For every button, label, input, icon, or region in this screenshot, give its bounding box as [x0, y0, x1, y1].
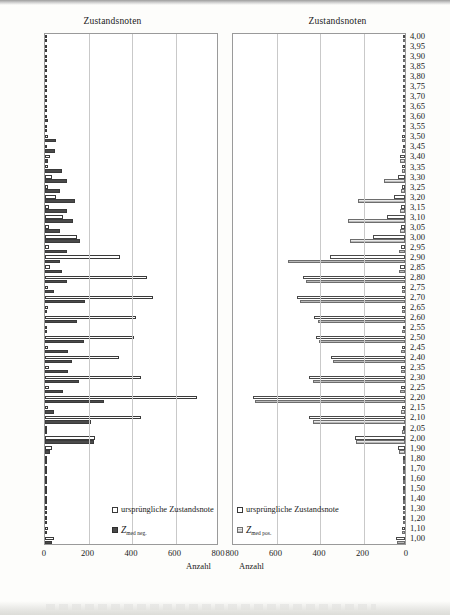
scan-edge-bottom [0, 601, 450, 615]
bar-original [45, 115, 47, 118]
y-axis-tick-label: 3,40 [410, 152, 450, 161]
bar-row [45, 315, 217, 325]
bar-original [45, 416, 141, 419]
bar-original [402, 135, 405, 138]
bar-row [233, 144, 405, 154]
bar-zmed [313, 380, 405, 383]
bar-zmed [45, 290, 54, 293]
bar-original [45, 306, 48, 309]
bar-row [45, 295, 217, 305]
bar-original [45, 336, 134, 339]
bar-row [233, 64, 405, 74]
x-axis-tick-label: 600 [269, 548, 282, 558]
bar-zmed [45, 400, 104, 403]
bar-row [45, 365, 217, 375]
bar-row [233, 486, 405, 496]
bar-row [233, 405, 405, 415]
legend-label-zmed: Zmed neg. [121, 525, 147, 536]
bar-row [233, 154, 405, 164]
bar-original [45, 316, 136, 319]
bar-zmed [45, 270, 62, 273]
bar-original [45, 225, 49, 228]
bar-zmed [403, 500, 405, 503]
bar-zmed [45, 219, 73, 222]
bar-zmed [401, 370, 405, 373]
chart-left-title: Zustandsnoten [0, 16, 225, 26]
chart-right-x-axis: 8006004002000 [232, 548, 406, 562]
bar-original [45, 215, 63, 218]
bar-zmed [45, 410, 54, 413]
bar-zmed [45, 460, 47, 463]
bar-zmed [358, 199, 405, 202]
bar-row [233, 345, 405, 355]
bar-zmed [399, 250, 405, 253]
x-axis-tick-label: 200 [356, 548, 369, 558]
bar-zmed [399, 450, 405, 453]
y-axis-tick-label: 3,85 [410, 62, 450, 71]
bar-row [233, 305, 405, 315]
legend-label-original: ursprüngliche Zustandsnote [246, 505, 339, 514]
bar-original [403, 466, 405, 469]
y-axis-tick-label: 3,30 [410, 173, 450, 182]
bar-row [233, 335, 405, 345]
chart-left-bars [45, 34, 217, 544]
bar-row [45, 185, 217, 195]
y-axis-tick-label: 3,45 [410, 142, 450, 151]
bar-original [314, 316, 405, 319]
bar-row [233, 315, 405, 325]
bar-zmed [45, 39, 47, 42]
bar-zmed [402, 169, 405, 172]
bar-zmed [401, 350, 405, 353]
bar-zmed [403, 521, 405, 524]
bar-row [233, 295, 405, 305]
bar-zmed [403, 89, 405, 92]
bar-row [233, 74, 405, 84]
chart-left-plot-area [44, 33, 218, 545]
y-axis-tick-label: 3,15 [410, 203, 450, 212]
y-axis-tick-label: 1,40 [410, 494, 450, 503]
x-axis-tick-label: 200 [81, 548, 94, 558]
y-axis-tick-label: 1,80 [410, 454, 450, 463]
bar-row [45, 205, 217, 215]
bar-zmed [45, 320, 77, 323]
bar-zmed [399, 270, 405, 273]
bar-original [45, 205, 49, 208]
bar-zmed [403, 69, 405, 72]
bar-row [45, 385, 217, 395]
bar-row [45, 255, 217, 265]
bar-zmed [397, 541, 405, 544]
x-axis-tick-label: 800 [226, 548, 239, 558]
bar-original [45, 527, 48, 530]
bar-row [233, 195, 405, 205]
bar-original [45, 255, 120, 258]
bar-row [45, 275, 217, 285]
bar-row [45, 325, 217, 335]
bar-zmed [384, 179, 405, 182]
y-axis-tick-label: 2,25 [410, 383, 450, 392]
bar-original [402, 286, 405, 289]
bar-zmed [45, 541, 52, 544]
bar-row [45, 225, 217, 235]
bar-original [45, 265, 50, 268]
bar-zmed [45, 189, 60, 192]
bar-zmed [45, 390, 63, 393]
gridline [132, 34, 133, 544]
y-axis-tick-label: 3,75 [410, 82, 450, 91]
bar-row [233, 34, 405, 44]
figure-page: Zustandsnoten 4,003,953,903,853,803,753,… [0, 0, 450, 615]
bar-zmed [300, 300, 405, 303]
bar-original [400, 155, 405, 158]
bar-row [233, 175, 405, 185]
bar-zmed [45, 300, 85, 303]
bar-original [403, 476, 405, 479]
bar-original [403, 145, 405, 148]
bar-row [45, 426, 217, 436]
bar-zmed [45, 380, 79, 383]
bar-original [297, 296, 405, 299]
bar-original [398, 446, 405, 449]
bar-zmed [402, 430, 405, 433]
bar-zmed [403, 460, 405, 463]
bar-zmed [45, 109, 47, 112]
bar-original [45, 55, 47, 58]
bar-original [402, 527, 405, 530]
